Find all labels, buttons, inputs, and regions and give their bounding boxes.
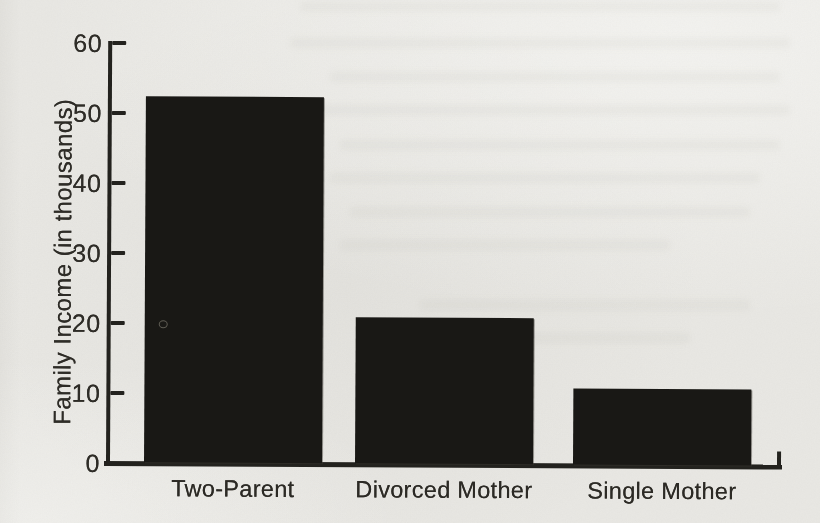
y-axis-tick	[111, 251, 125, 255]
bars-group	[2, 0, 820, 4]
bar-two-parent	[144, 96, 324, 463]
bar-chart-figure: Family Income (in thousands) 01020304050…	[0, 0, 820, 523]
y-axis-tick-label: 30	[1, 238, 101, 267]
y-axis-tick	[111, 181, 125, 185]
x-axis-labels-group: Two-ParentDivorced MotherSingle Mother	[2, 0, 820, 4]
scanned-textbook-page: Family Income (in thousands) 01020304050…	[0, 0, 820, 523]
x-axis-category-label: Single Mother	[542, 477, 782, 504]
y-axis-tick-label: 50	[2, 98, 102, 127]
scan-speck-artifact	[159, 320, 168, 328]
y-axis-ticks-group: 0102030405060	[2, 0, 820, 4]
y-axis-tick	[112, 111, 126, 115]
y-axis-tick-label: 10	[0, 378, 100, 407]
x-axis-category-label: Divorced Mother	[324, 476, 564, 503]
y-axis-tick	[110, 391, 124, 395]
y-axis-tick-label: 60	[2, 28, 102, 57]
y-axis-tick-label: 0	[0, 448, 100, 477]
bar-divorced-mother	[355, 317, 534, 464]
y-axis-tick-label: 40	[1, 168, 101, 197]
y-axis-tick	[111, 321, 125, 325]
y-axis-tick	[112, 41, 126, 45]
y-axis-tick-label: 20	[1, 308, 101, 337]
bar-single-mother	[573, 388, 751, 465]
x-axis-category-label: Two-Parent	[113, 475, 353, 502]
x-axis-end-tick	[777, 452, 781, 468]
